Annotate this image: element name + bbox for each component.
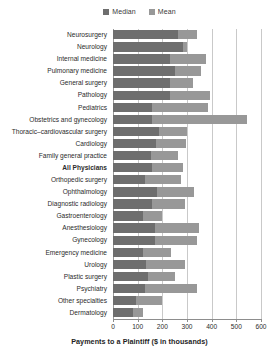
y-axis-label: All Physicians [62,162,107,174]
x-tick-label: 600 [255,323,266,330]
y-axis-label: Emergency medicine [45,247,107,259]
y-axis-label: Thoracic–cardiovascular surgery [12,126,107,138]
bar-row [113,210,261,222]
bar-median [113,236,155,245]
bar-median [113,187,157,196]
x-tick [261,319,262,322]
bar-row [113,174,261,186]
bar-median [113,284,145,293]
bar-row [113,283,261,295]
y-axis-label: Neurosurgery [67,29,107,41]
bar-row [113,126,261,138]
bar-median [113,163,152,172]
bar-median [113,42,183,51]
bar-row [113,307,261,319]
bar-row [113,41,261,53]
x-tick [162,319,163,322]
legend-entry-median: Median [103,8,136,15]
bar-chart: Median Mean NeurosurgeryNeurologyInterna… [0,0,279,358]
bar-median [113,127,159,136]
y-axis-label: Anesthesiology [62,222,107,234]
bar-median [113,223,155,232]
bar-median [113,296,136,305]
y-axis-label: Obstetrics and gynecology [29,114,107,126]
bar-row [113,186,261,198]
y-axis-label: Plastic surgery [64,271,107,283]
bar-row [113,150,261,162]
x-tick [212,319,213,322]
bar-median [113,272,148,281]
y-axis-label: Dermatology [70,307,107,319]
bar-median [113,54,170,63]
bar-median [113,260,146,269]
y-axis-label: Pathology [78,89,107,101]
y-axis-label: Other specialties [58,295,107,307]
x-tick-label: 200 [157,323,168,330]
median-swatch [103,9,109,15]
bar-median [113,66,175,75]
y-axis-label: Gynecology [72,234,107,246]
y-axis-label: Pulmonary medicine [47,65,107,77]
y-axis-label: Family general practice [39,150,107,162]
bar-median [113,199,152,208]
bar-median [113,308,133,317]
bar-row [113,29,261,41]
bar-row [113,295,261,307]
chart-legend: Median Mean [0,8,279,15]
bar-row [113,53,261,65]
y-axis-label: Neurology [77,41,107,53]
x-tick [138,319,139,322]
y-axis-label: Orthopedic surgery [51,174,107,186]
bar-row [113,234,261,246]
y-axis-label: Urology [84,259,107,271]
bar-median [113,103,152,112]
x-tick [113,319,114,322]
y-axis-labels: NeurosurgeryNeurologyInternal medicinePu… [0,29,110,319]
bar-median [113,175,145,184]
x-tick-label: 100 [132,323,143,330]
bar-rows [113,29,261,319]
x-tick-label: 300 [181,323,192,330]
bar-row [113,259,261,271]
x-tick-label: 0 [111,323,115,330]
bar-row [113,222,261,234]
bar-row [113,65,261,77]
bar-median [113,211,143,220]
gridline-600 [261,29,262,319]
x-tick [236,319,237,322]
x-tick [187,319,188,322]
bar-row [113,162,261,174]
bar-row [113,138,261,150]
bar-median [113,115,152,124]
bar-median [113,91,170,100]
y-axis-label: Diagnostic radiology [48,198,107,210]
x-axis-title: Payments to a Plaintiff ($ in thousands) [0,337,279,346]
legend-entry-mean: Mean [149,8,176,15]
legend-label-mean: Mean [158,8,176,15]
y-axis-label: Internal medicine [57,53,107,65]
y-axis-label: Gastroenterology [56,210,107,222]
bar-row [113,89,261,101]
bar-row [113,77,261,89]
bar-row [113,102,261,114]
bar-row [113,247,261,259]
y-axis-label: Ophthalmology [63,186,107,198]
y-axis-label: Cardiology [75,138,107,150]
bar-median [113,30,178,39]
bar-row [113,198,261,210]
x-tick-label: 400 [206,323,217,330]
y-axis-label: General surgery [60,77,107,89]
plot-area [113,29,261,319]
y-axis-label: Psychiatry [77,283,107,295]
y-axis-label: Pediatrics [78,102,107,114]
bar-median [113,78,170,87]
bar-median [113,139,156,148]
bar-row [113,271,261,283]
bar-median [113,151,151,160]
mean-swatch [149,9,155,15]
x-tick-label: 500 [231,323,242,330]
bar-median [113,248,143,257]
bar-row [113,114,261,126]
legend-label-median: Median [112,8,136,15]
